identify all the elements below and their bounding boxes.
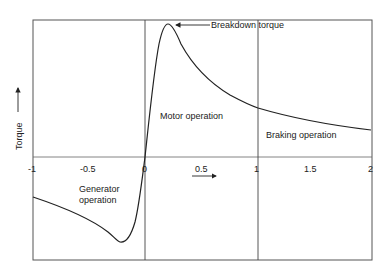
x-tick-label: 0 (142, 164, 147, 174)
x-tick-label: 0.5 (195, 164, 208, 174)
plot-frame (33, 20, 372, 260)
x-tick-label: 2 (368, 164, 373, 174)
x-tick-label: -1 (28, 164, 36, 174)
torque-slip-chart: -1 -0.5 0 0.5 1 1.5 2 Torque Breakdown t… (0, 0, 387, 275)
motor-operation-label: Motor operation (160, 111, 223, 121)
braking-operation-label: Braking operation (266, 130, 337, 140)
x-tick-label: -0.5 (80, 164, 96, 174)
generator-operation-label-line2: operation (79, 195, 117, 205)
breakdown-torque-label: Breakdown torque (211, 20, 284, 30)
x-tick-label: 1 (254, 164, 259, 174)
generator-operation-label-line1: Generator (79, 184, 120, 194)
y-axis-label: Torque (14, 122, 24, 150)
x-tick-label: 1.5 (304, 164, 317, 174)
